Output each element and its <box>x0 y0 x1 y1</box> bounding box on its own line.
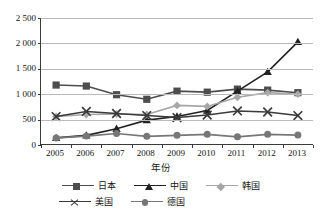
y-tick-mark <box>38 120 41 121</box>
gridline <box>41 18 313 19</box>
legend-label: 日本 <box>98 179 116 192</box>
x-tick-label: 2009 <box>159 148 193 158</box>
y-tick-label: 2 000 <box>2 39 36 48</box>
gridline <box>41 69 313 70</box>
y-tick-mark <box>38 43 41 44</box>
data-point-marker <box>204 131 211 138</box>
x-tick-label: 2005 <box>38 148 72 158</box>
y-tick-label: 2 500 <box>2 14 36 23</box>
data-point-marker <box>53 134 60 141</box>
data-point-marker <box>174 132 181 139</box>
x-tick-label: 2008 <box>129 148 163 158</box>
data-point-marker <box>83 82 90 89</box>
data-point-marker <box>113 130 120 137</box>
legend-marker-circle-icon <box>142 198 149 206</box>
data-point-marker <box>234 133 241 140</box>
legend-label: 美国 <box>95 195 113 208</box>
gridline <box>41 120 313 121</box>
y-tick-label: 1 000 <box>2 90 36 99</box>
gridline <box>41 43 313 44</box>
x-axis-line <box>41 144 313 145</box>
series-layer <box>41 18 313 145</box>
data-point-marker <box>264 131 271 138</box>
legend-swatch <box>206 181 238 191</box>
data-point-marker <box>53 81 60 88</box>
legend-item-德国[interactable]: 德国 <box>131 195 185 208</box>
y-tick-label: 500 <box>2 115 36 124</box>
y-tick-label: 0 <box>2 141 36 150</box>
legend-marker-triangle-icon <box>145 182 153 190</box>
x-tick-label: 2013 <box>280 148 314 158</box>
legend-item-日本[interactable]: 日本 <box>62 179 116 192</box>
gridline <box>41 94 313 95</box>
y-tick-label: 1 500 <box>2 64 36 73</box>
legend-marker-square-icon <box>73 182 80 190</box>
data-point-marker <box>173 101 181 109</box>
y-tick-mark <box>38 69 41 70</box>
legend-row: 日本中国韩国 <box>0 178 321 193</box>
legend-label: 德国 <box>167 195 185 208</box>
y-tick-mark <box>38 18 41 19</box>
legend-swatch <box>62 181 94 191</box>
legend-marker-x-icon <box>70 198 78 207</box>
plot-area <box>40 18 312 145</box>
x-tick-label: 2011 <box>219 148 253 158</box>
legend-row: 美国德国 <box>0 194 321 209</box>
legend-swatch <box>131 197 163 207</box>
legend-item-韩国[interactable]: 韩国 <box>206 179 260 192</box>
data-point-marker <box>294 132 301 139</box>
x-tick-label: 2010 <box>189 148 223 158</box>
x-tick-label: 2006 <box>68 148 102 158</box>
legend-swatch <box>59 197 91 207</box>
series-德国 <box>53 130 302 141</box>
data-point-marker <box>143 133 150 140</box>
data-point-marker <box>83 133 90 140</box>
line-chart: 发明专利族数量 05001 0001 5002 0002 500 2005200… <box>0 0 321 221</box>
x-axis-title: 年份 <box>0 160 321 174</box>
legend-label: 韩国 <box>242 179 260 192</box>
x-tick-label: 2012 <box>250 148 284 158</box>
y-tick-mark <box>38 94 41 95</box>
legend-item-中国[interactable]: 中国 <box>134 179 188 192</box>
legend-label: 中国 <box>170 179 188 192</box>
chart-legend: 日本中国韩国 美国德国 <box>0 178 321 212</box>
legend-marker-diamond-icon <box>217 182 224 190</box>
x-tick-label: 2007 <box>99 148 133 158</box>
legend-swatch <box>134 181 166 191</box>
legend-item-美国[interactable]: 美国 <box>59 195 113 208</box>
series-日本 <box>53 81 302 102</box>
data-point-marker <box>143 96 150 103</box>
